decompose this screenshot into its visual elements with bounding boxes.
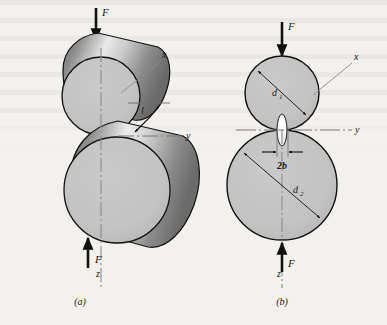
lower-cylinder-face-a	[64, 137, 170, 243]
axis-x-leader-b	[313, 63, 352, 95]
panel-a-group: y z x l (a)	[62, 8, 199, 308]
force-top-label-a: F	[101, 6, 109, 18]
axis-x-label-a: x	[161, 49, 167, 60]
diameter-d1-subscript-b: 1	[279, 93, 283, 101]
panel-a-caption: (a)	[74, 296, 86, 308]
axis-z-label-b: z	[276, 268, 281, 279]
axis-z-label-a: z	[95, 268, 100, 279]
panel-b-caption: (b)	[276, 296, 288, 308]
figure-canvas: y z x l (a) F F	[0, 0, 387, 325]
hertz-contact-figure: y z x l (a) F F	[0, 0, 387, 325]
axis-y-label-a: y	[185, 130, 191, 141]
axis-x-label-b: x	[353, 51, 359, 62]
force-top-label-b: F	[287, 20, 295, 32]
force-bottom-label-b: F	[287, 257, 295, 269]
axis-y-label-b: y	[354, 124, 360, 135]
contact-length-label-a: l	[141, 105, 144, 116]
force-bottom-label-a: F	[94, 253, 102, 265]
diameter-d2-subscript-b: 2	[300, 190, 304, 198]
lower-cylinder-a	[64, 121, 199, 247]
upper-cylinder-a	[62, 33, 170, 135]
contact-width-label-b: 2b	[276, 160, 287, 171]
